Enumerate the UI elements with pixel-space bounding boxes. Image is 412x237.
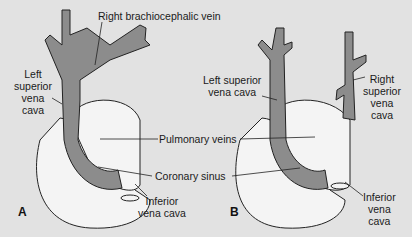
label-a-left-superior-vena-cava: Left superior vena cava (14, 68, 52, 116)
panel-b-heart (236, 28, 366, 228)
panel-a-heart (37, 10, 150, 228)
label-a-inferior-vena-cava: Inferior vena cava (138, 195, 186, 219)
label-pulmonary-veins: Pulmonary veins (159, 133, 237, 145)
heart-diagram (0, 0, 412, 237)
label-coronary-sinus: Coronary sinus (155, 170, 226, 182)
label-b-right-superior-vena-cava: Right superior vena cava (363, 73, 401, 121)
panel-letter-a: A (18, 205, 27, 219)
label-b-inferior-vena-cava: Inferior vena cava (363, 191, 396, 227)
panel-letter-b: B (230, 205, 239, 219)
label-b-left-superior-vena-cava: Left superior vena cava (203, 74, 261, 98)
label-right-brachiocephalic-vein: Right brachiocephalic vein (98, 10, 221, 22)
